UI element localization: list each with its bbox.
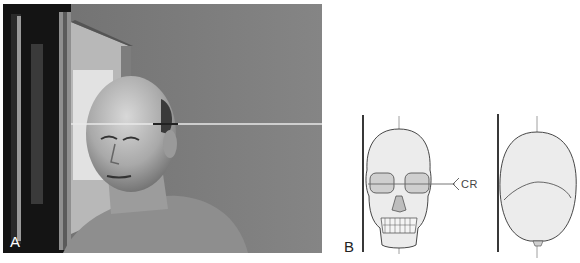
front-skull-diagram [363, 115, 459, 254]
photo-illustration [3, 4, 322, 253]
panel-b-label: B [344, 239, 354, 254]
panel-a-label: A [10, 234, 20, 249]
top-skull-diagram [498, 114, 576, 258]
patient-photo [3, 4, 322, 253]
central-ray-label: CR [461, 178, 478, 190]
skull-diagrams [330, 90, 580, 263]
